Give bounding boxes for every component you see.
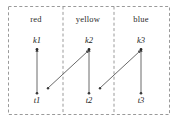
node-label-k3: k3 (126, 35, 156, 45)
node-marker-k3 (140, 48, 143, 51)
node-marker-k1 (36, 48, 39, 51)
node-label-k1: k1 (22, 35, 52, 45)
diagonal-start-marker-t2 (99, 87, 101, 89)
column-header-red: red (16, 14, 56, 24)
node-label-k2: k2 (74, 35, 104, 45)
diagonal-start-marker-t1 (47, 87, 49, 89)
node-marker-k2 (88, 48, 91, 51)
column-header-blue: blue (121, 14, 161, 24)
arrow-t1-k2 (48, 51, 88, 88)
column-header-yellow: yellow (68, 14, 108, 24)
node-label-t3: t3 (126, 95, 156, 105)
arrow-t2-k3 (100, 51, 140, 88)
node-label-t1: t1 (22, 95, 52, 105)
node-label-t2: t2 (74, 95, 104, 105)
figure-container: red yellow blue k1 k2 k3 t1 t2 t3 (0, 0, 177, 123)
